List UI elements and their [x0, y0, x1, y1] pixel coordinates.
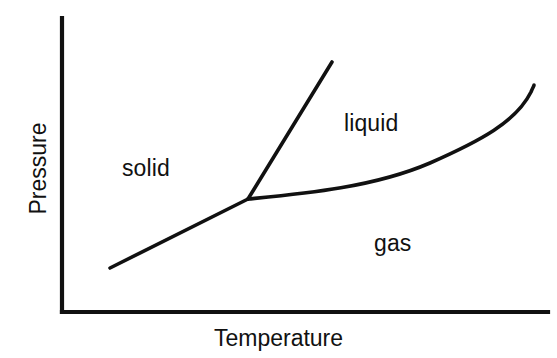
sublimation-curve: [110, 199, 248, 268]
region-label-gas: gas: [374, 230, 411, 257]
region-label-liquid: liquid: [344, 110, 398, 137]
region-label-solid: solid: [122, 155, 170, 182]
phase-diagram-plot: [0, 0, 557, 358]
phase-diagram-figure: solid liquid gas Temperature Pressure: [0, 0, 557, 358]
vaporization-curve: [248, 85, 534, 199]
fusion-curve: [248, 62, 332, 199]
y-axis-title: Pressure: [25, 69, 52, 269]
x-axis-title: Temperature: [0, 325, 557, 352]
